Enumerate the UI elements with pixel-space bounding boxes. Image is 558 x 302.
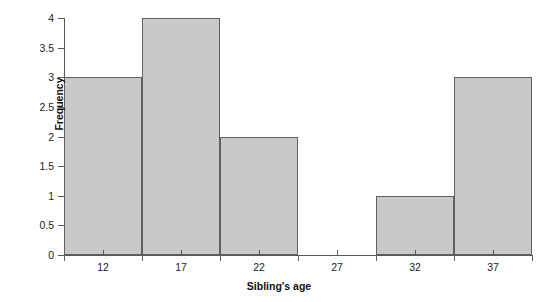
- y-tick-label-8: 4: [14, 13, 54, 24]
- bar-12: [64, 77, 142, 255]
- y-tick-label-0: 0: [14, 250, 54, 261]
- y-tick-label-1: 0.5: [14, 220, 54, 231]
- bar-32: [376, 196, 454, 255]
- bar-22: [220, 137, 298, 256]
- y-tick-label-7: 3.5: [14, 43, 54, 54]
- x-bin-edge-tick-3: [298, 255, 299, 261]
- x-tick-label-22: 22: [229, 262, 289, 273]
- x-bin-edge-tick-6: [532, 255, 533, 261]
- x-tick-mark-17: [181, 250, 182, 255]
- x-tick-label-27: 27: [307, 262, 367, 273]
- bar-17: [142, 18, 220, 255]
- x-bin-edge-tick-5: [454, 255, 455, 261]
- x-tick-mark-32: [415, 250, 416, 255]
- x-tick-mark-27: [337, 250, 338, 255]
- x-tick-mark-12: [103, 250, 104, 255]
- x-tick-label-12: 12: [73, 262, 133, 273]
- y-tick-label-3: 1.5: [14, 161, 54, 172]
- y-tick-label-5: 2.5: [14, 102, 54, 113]
- x-bin-edge-tick-1: [142, 255, 143, 261]
- plot-area: [64, 18, 532, 255]
- x-tick-mark-22: [259, 250, 260, 255]
- y-tick-label-6: 3: [14, 72, 54, 83]
- x-bin-edge-tick-2: [220, 255, 221, 261]
- x-tick-mark-37: [493, 250, 494, 255]
- x-tick-label-17: 17: [151, 262, 211, 273]
- y-axis-title: Frequency: [53, 59, 65, 149]
- x-tick-label-32: 32: [385, 262, 445, 273]
- bar-37: [454, 77, 532, 255]
- y-tick-label-2: 1: [14, 191, 54, 202]
- y-tick-label-4: 2: [14, 132, 54, 143]
- histogram-chart: 0 0.5 1 1.5 2 2.5 3 3.5 4 12 17 22 27 32…: [0, 0, 558, 302]
- x-bin-edge-tick-4: [376, 255, 377, 261]
- x-bin-edge-tick-0: [64, 255, 65, 261]
- x-tick-label-37: 37: [463, 262, 523, 273]
- x-axis-title: Sibling's age: [0, 280, 558, 292]
